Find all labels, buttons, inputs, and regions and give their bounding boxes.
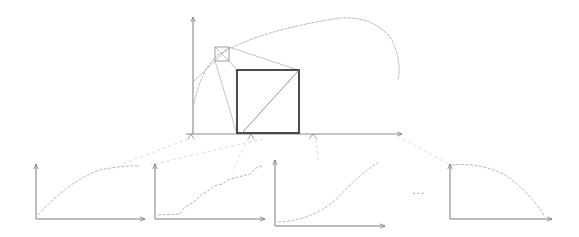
ellipsis-text: ... [412, 184, 426, 197]
projection-line [215, 61, 237, 134]
connectors [120, 139, 450, 172]
tick-mark [309, 134, 317, 139]
subplot-1-curve [38, 166, 140, 215]
subplot-3-curve [278, 163, 378, 222]
diagram-canvas: ... [0, 0, 579, 237]
tick-mark [188, 134, 194, 139]
projection-line [229, 47, 298, 70]
main-plot [186, 17, 402, 139]
subplot-3 [275, 160, 385, 226]
projection-line [193, 61, 215, 82]
subplot-2-curve [158, 166, 262, 215]
subplot-4 [450, 164, 552, 219]
large-zoom-box [237, 70, 299, 133]
projection-line [229, 61, 237, 70]
subplot-2 [155, 164, 265, 219]
subplot-1 [36, 164, 145, 219]
diagram-svg [0, 0, 579, 237]
tick-mark [248, 134, 254, 139]
small-zoom-box [215, 47, 229, 61]
subplot-4-curve [452, 164, 545, 217]
main-curve [193, 18, 399, 109]
